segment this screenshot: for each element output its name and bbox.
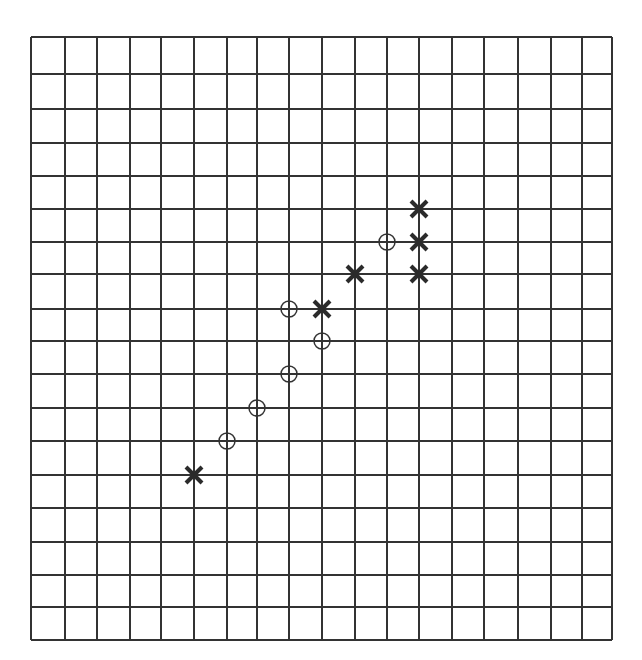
board-intersection[interactable] xyxy=(539,463,563,487)
board-intersection[interactable] xyxy=(19,329,43,353)
board-intersection[interactable] xyxy=(118,429,142,453)
board-intersection[interactable] xyxy=(53,463,77,487)
board-intersection[interactable] xyxy=(440,62,464,86)
board-intersection[interactable] xyxy=(149,396,173,420)
board-intersection[interactable] xyxy=(182,62,206,86)
board-intersection[interactable] xyxy=(407,62,431,86)
board-intersection[interactable] xyxy=(407,25,431,49)
board-intersection[interactable] xyxy=(343,230,367,254)
board-intersection[interactable] xyxy=(182,429,206,453)
board-intersection[interactable] xyxy=(600,563,624,587)
board-intersection[interactable] xyxy=(440,230,464,254)
board-intersection[interactable] xyxy=(245,530,269,554)
board-intersection[interactable] xyxy=(277,164,301,188)
board-intersection[interactable] xyxy=(118,496,142,520)
board-intersection[interactable] xyxy=(506,628,530,652)
board-intersection[interactable] xyxy=(539,595,563,619)
board-intersection[interactable] xyxy=(375,329,399,353)
board-intersection[interactable] xyxy=(19,362,43,386)
board-intersection[interactable] xyxy=(506,396,530,420)
board-intersection[interactable] xyxy=(539,262,563,286)
game-board[interactable] xyxy=(0,0,642,660)
board-intersection[interactable] xyxy=(472,25,496,49)
board-intersection[interactable] xyxy=(570,530,594,554)
board-intersection[interactable] xyxy=(245,25,269,49)
board-intersection[interactable] xyxy=(506,297,530,321)
board-intersection[interactable] xyxy=(343,197,367,221)
board-intersection[interactable] xyxy=(85,628,109,652)
board-intersection[interactable] xyxy=(85,131,109,155)
board-intersection[interactable] xyxy=(506,262,530,286)
board-intersection[interactable] xyxy=(440,262,464,286)
board-intersection[interactable] xyxy=(472,131,496,155)
board-intersection[interactable] xyxy=(600,628,624,652)
board-intersection[interactable] xyxy=(539,362,563,386)
board-intersection[interactable] xyxy=(472,496,496,520)
board-intersection[interactable] xyxy=(440,628,464,652)
board-intersection[interactable] xyxy=(539,628,563,652)
board-intersection[interactable] xyxy=(277,131,301,155)
board-intersection[interactable] xyxy=(375,97,399,121)
board-intersection[interactable] xyxy=(53,362,77,386)
board-intersection[interactable] xyxy=(53,396,77,420)
board-intersection[interactable] xyxy=(118,563,142,587)
board-intersection[interactable] xyxy=(539,297,563,321)
board-intersection[interactable] xyxy=(407,297,431,321)
board-intersection[interactable] xyxy=(506,131,530,155)
board-intersection[interactable] xyxy=(440,429,464,453)
board-intersection[interactable] xyxy=(343,429,367,453)
board-intersection[interactable] xyxy=(53,164,77,188)
board-intersection[interactable] xyxy=(118,362,142,386)
board-intersection[interactable] xyxy=(19,530,43,554)
board-intersection[interactable] xyxy=(149,25,173,49)
board-intersection[interactable] xyxy=(407,530,431,554)
board-intersection[interactable] xyxy=(19,463,43,487)
board-intersection[interactable] xyxy=(149,230,173,254)
board-intersection[interactable] xyxy=(19,131,43,155)
board-intersection[interactable] xyxy=(600,164,624,188)
board-intersection[interactable] xyxy=(375,563,399,587)
board-intersection[interactable] xyxy=(472,595,496,619)
board-intersection[interactable] xyxy=(182,595,206,619)
board-intersection[interactable] xyxy=(600,362,624,386)
board-intersection[interactable] xyxy=(506,329,530,353)
board-intersection[interactable] xyxy=(277,262,301,286)
board-intersection[interactable] xyxy=(506,429,530,453)
board-intersection[interactable] xyxy=(215,563,239,587)
board-intersection[interactable] xyxy=(472,530,496,554)
board-intersection[interactable] xyxy=(118,297,142,321)
board-intersection[interactable] xyxy=(440,595,464,619)
board-intersection[interactable] xyxy=(539,563,563,587)
board-intersection[interactable] xyxy=(440,396,464,420)
board-intersection[interactable] xyxy=(53,628,77,652)
board-intersection[interactable] xyxy=(472,62,496,86)
board-intersection[interactable] xyxy=(570,131,594,155)
board-intersection[interactable] xyxy=(600,496,624,520)
board-intersection[interactable] xyxy=(472,463,496,487)
board-intersection[interactable] xyxy=(215,131,239,155)
board-intersection[interactable] xyxy=(310,97,334,121)
board-intersection[interactable] xyxy=(85,396,109,420)
board-intersection[interactable] xyxy=(149,628,173,652)
board-intersection[interactable] xyxy=(215,62,239,86)
board-intersection[interactable] xyxy=(245,563,269,587)
board-intersection[interactable] xyxy=(215,197,239,221)
board-intersection[interactable] xyxy=(343,396,367,420)
board-intersection[interactable] xyxy=(215,262,239,286)
board-intersection[interactable] xyxy=(375,164,399,188)
board-intersection[interactable] xyxy=(375,62,399,86)
board-intersection[interactable] xyxy=(570,97,594,121)
board-intersection[interactable] xyxy=(407,329,431,353)
board-intersection[interactable] xyxy=(472,329,496,353)
board-intersection[interactable] xyxy=(407,563,431,587)
board-intersection[interactable] xyxy=(600,463,624,487)
board-intersection[interactable] xyxy=(245,164,269,188)
board-intersection[interactable] xyxy=(343,362,367,386)
board-intersection[interactable] xyxy=(182,25,206,49)
board-intersection[interactable] xyxy=(277,563,301,587)
board-intersection[interactable] xyxy=(440,496,464,520)
board-intersection[interactable] xyxy=(600,429,624,453)
board-intersection[interactable] xyxy=(375,262,399,286)
board-intersection[interactable] xyxy=(440,530,464,554)
board-intersection[interactable] xyxy=(118,197,142,221)
